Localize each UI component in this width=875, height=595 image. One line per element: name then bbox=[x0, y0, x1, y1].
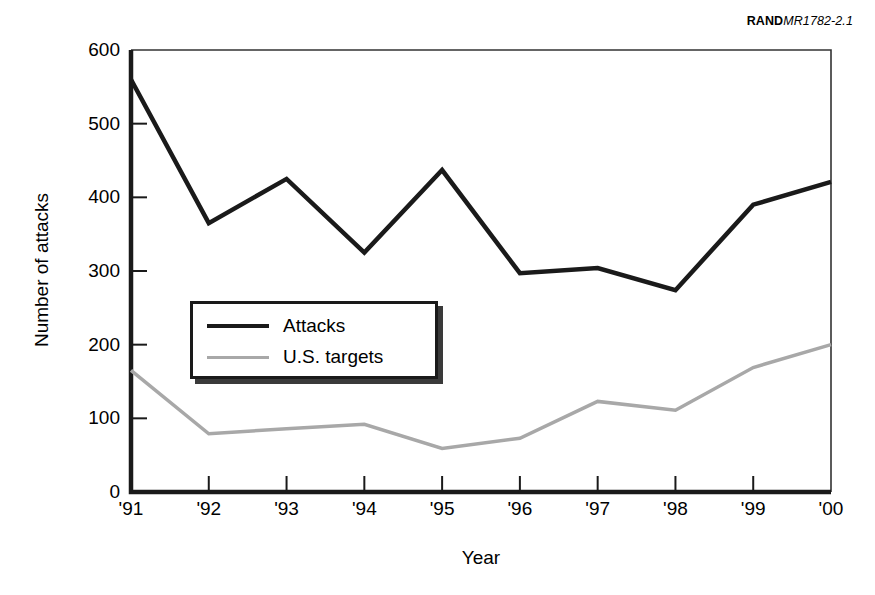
legend-item-attacks: Attacks bbox=[207, 311, 345, 341]
x-axis-tick-label: '92 bbox=[196, 498, 221, 520]
legend-label-us-targets: U.S. targets bbox=[283, 346, 383, 368]
x-axis-tick-label: '94 bbox=[352, 498, 377, 520]
plot-frame-axes bbox=[131, 50, 831, 492]
x-axis-tick-label: '98 bbox=[663, 498, 688, 520]
plot-frame-top-right bbox=[131, 50, 831, 492]
x-axis-tick-label: '91 bbox=[119, 498, 144, 520]
legend-swatch-us-targets-icon bbox=[207, 356, 269, 359]
x-axis-tick-label: '00 bbox=[819, 498, 844, 520]
x-axis-tick-label: '97 bbox=[585, 498, 610, 520]
x-axis-tick-label: '96 bbox=[507, 498, 532, 520]
x-axis-tick-label: '95 bbox=[430, 498, 455, 520]
legend-item-us-targets: U.S. targets bbox=[207, 342, 383, 372]
series-line-attacks bbox=[131, 79, 831, 290]
legend-label-attacks: Attacks bbox=[283, 315, 345, 337]
legend-swatch-attacks-icon bbox=[207, 324, 269, 328]
x-axis-tick-label: '93 bbox=[274, 498, 299, 520]
chart-figure: RANDMR1782-2.1 0100200300400500600 Numbe… bbox=[0, 0, 875, 595]
x-axis-tick-label: '99 bbox=[741, 498, 766, 520]
chart-legend: Attacks U.S. targets bbox=[190, 301, 438, 379]
